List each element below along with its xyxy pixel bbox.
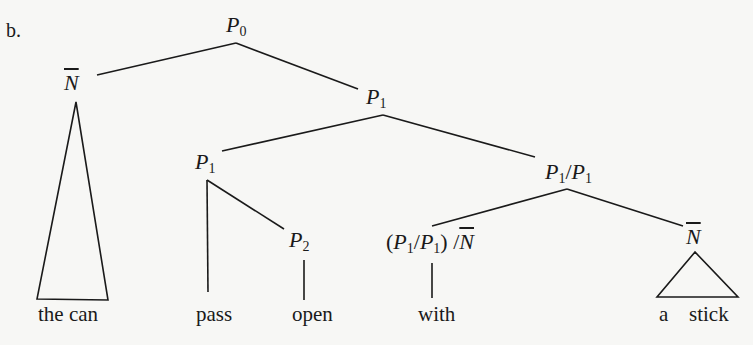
leaf-a: a [659,304,668,325]
node-p1-vp: P1 [366,86,386,111]
leaf-with: with [418,304,455,325]
syntax-tree-diagram: b. P0 N P1 P1 P1/P1 P2 (P1/P1) /N N the … [0,0,753,345]
node-nbar-subject: N [64,72,79,94]
node-prep-category: (P1/P1) /N [386,231,474,256]
edge-p1-modifier [383,115,535,157]
edge-p1-p1left [222,115,383,151]
edge-p0-nbar [97,43,236,75]
leaf-pass: pass [196,304,232,325]
node-p1-verb-complex: P1 [195,151,215,176]
edge-modifier-prep [432,189,567,226]
triangle-object [657,252,738,297]
node-p1-over-p1: P1/P1 [545,161,592,186]
edge-p1left-p2 [207,180,284,229]
node-nbar-object: N [686,226,701,248]
edge-p0-p1 [236,43,358,89]
node-p2: P2 [289,229,309,254]
node-p0: P0 [226,14,246,39]
leaf-open: open [292,304,333,325]
edge-modifier-object [567,189,683,226]
leaf-stick: stick [689,304,729,325]
tree-edges [0,0,753,345]
triangle-subject [37,102,108,300]
edge-p1left-pass [207,180,208,292]
example-label: b. [6,20,21,40]
leaf-the-can: the can [38,304,98,325]
